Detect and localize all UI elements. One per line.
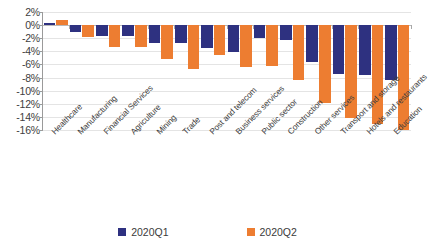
bar-q1 (385, 25, 397, 79)
legend-item-2020Q2[interactable]: 2020Q2 (247, 227, 297, 238)
bar-q1 (175, 25, 187, 43)
bar-q2 (188, 25, 200, 69)
bar-q1 (96, 25, 108, 35)
bar-q2 (56, 20, 68, 25)
y-tick-label: -10% (16, 85, 40, 96)
bar-q2 (372, 25, 384, 124)
bar-q2 (293, 25, 305, 79)
y-axis: 2%0%-2%-4%-6%-8%-10%-12%-14%-16% (0, 0, 40, 140)
bar-q2 (240, 25, 252, 67)
bar-q1 (254, 25, 266, 37)
x-tickmark (411, 25, 412, 29)
bar-q1 (122, 25, 134, 35)
bar-q1 (333, 25, 345, 74)
y-tick-label: 0% (25, 20, 40, 31)
legend-label: 2020Q2 (260, 227, 297, 238)
bar-q2 (161, 25, 173, 58)
legend-item-2020Q1[interactable]: 2020Q1 (118, 227, 168, 238)
bar-q2 (319, 25, 331, 103)
bar-q2 (266, 25, 278, 66)
legend-swatch-icon (247, 228, 255, 236)
bar-q1 (44, 23, 56, 25)
bar-q2 (214, 25, 226, 55)
y-tick-label: -6% (22, 59, 40, 70)
chart-legend: 2020Q12020Q2 (0, 222, 415, 242)
y-tick-label: -12% (16, 99, 40, 110)
bar-q1 (149, 25, 161, 43)
bar-q2 (82, 25, 94, 37)
y-tick-label: -14% (16, 112, 40, 123)
y-tick-label: 2% (25, 7, 40, 18)
bar-q1 (306, 25, 318, 62)
legend-label: 2020Q1 (131, 227, 168, 238)
y-tick-label: -16% (16, 125, 40, 136)
x-axis-category-labels: HealthcareManufacturingFinancial Service… (42, 130, 410, 218)
bar-q1 (228, 25, 240, 52)
legend-swatch-icon (118, 228, 126, 236)
bar-q1 (201, 25, 213, 48)
y-tick-label: -8% (22, 72, 40, 83)
y-tick-label: -4% (22, 46, 40, 57)
bar-q2 (109, 25, 121, 47)
bar-group (174, 12, 200, 130)
y-tick-label: -2% (22, 33, 40, 44)
bar-q2 (135, 25, 147, 47)
bar-q1 (280, 25, 292, 39)
bar-q1 (70, 25, 82, 32)
bar-q1 (359, 25, 371, 75)
